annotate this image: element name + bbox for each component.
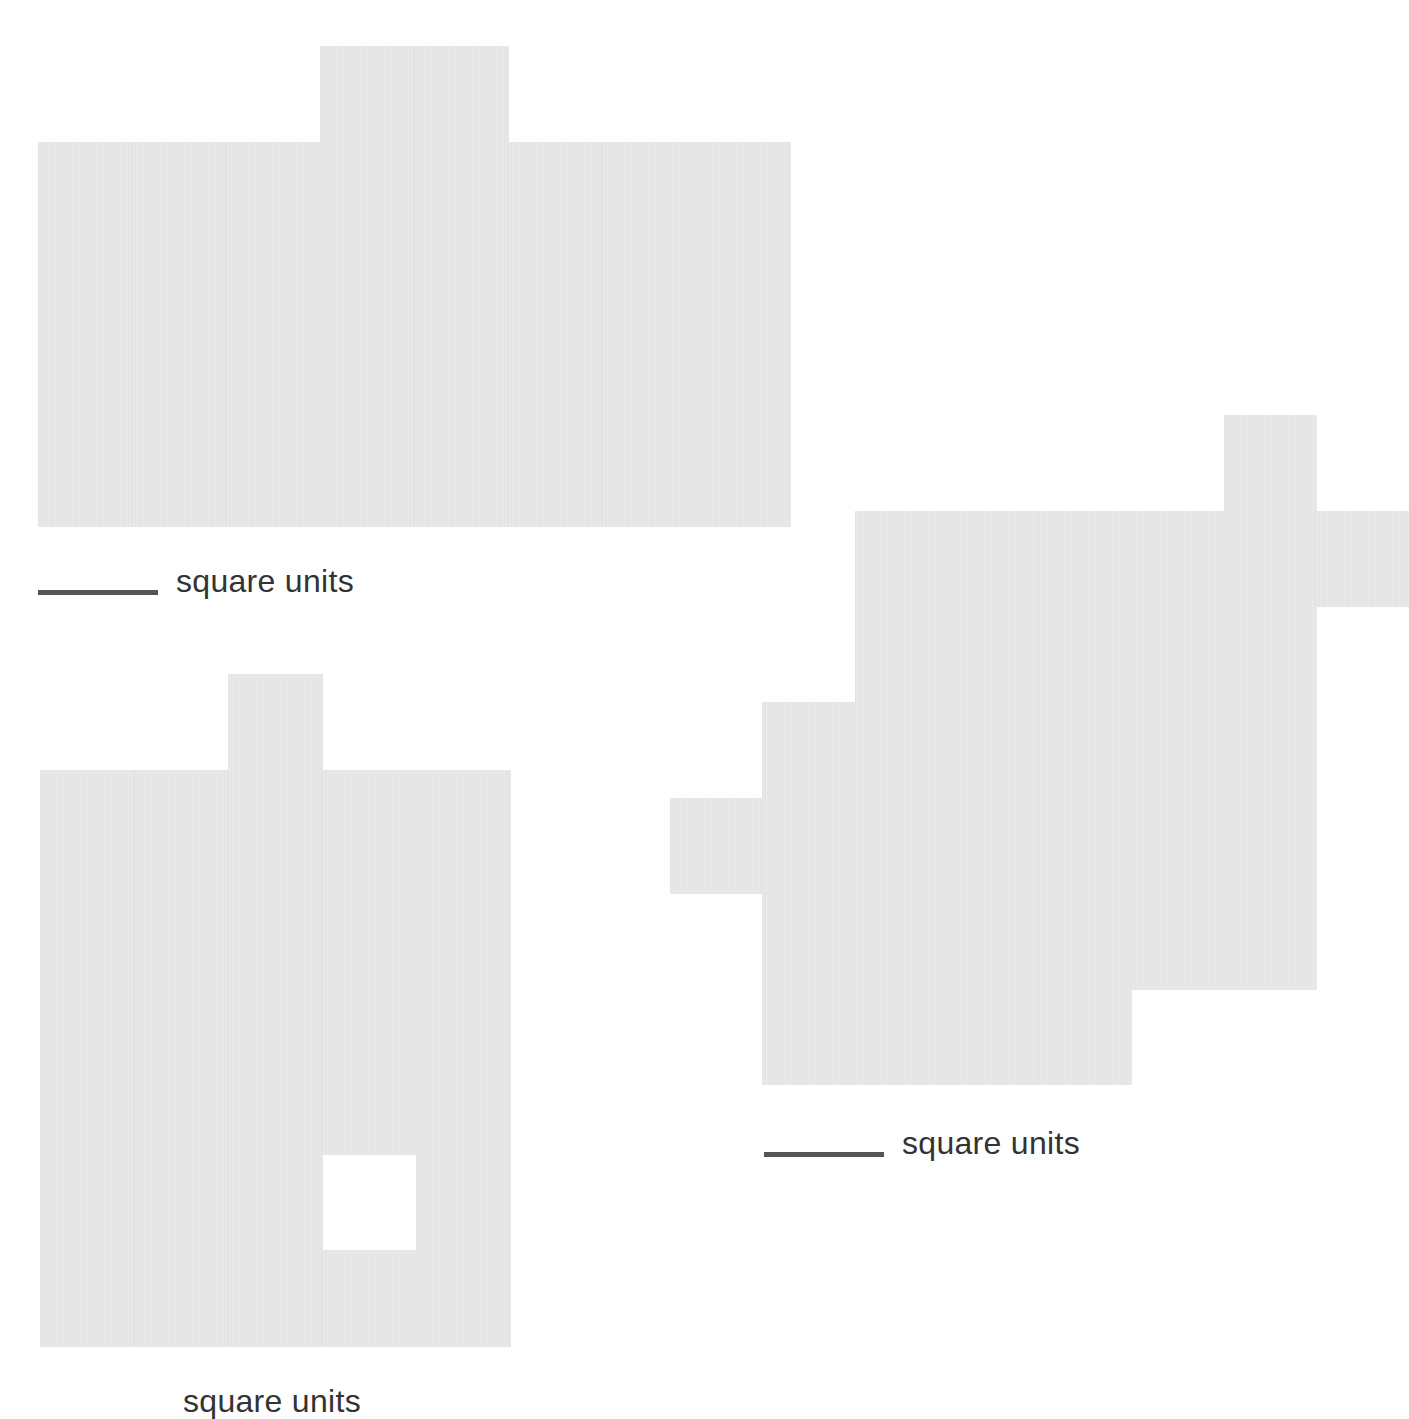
unit-square [414, 142, 509, 239]
unit-square [320, 430, 415, 527]
unit-square [320, 334, 415, 431]
unit-square [696, 142, 791, 239]
unit-square [414, 334, 509, 431]
unit-square [696, 334, 791, 431]
unit-square [947, 894, 1040, 990]
unit-square [1224, 511, 1317, 607]
unit-square [322, 1250, 417, 1347]
unit-square [1224, 702, 1317, 798]
unit-square [320, 46, 415, 143]
unit-square [416, 770, 511, 867]
unit-square [1039, 511, 1132, 607]
unit-square [855, 511, 948, 607]
unit-square [134, 1058, 229, 1155]
unit-square [322, 770, 417, 867]
unit-square [1224, 606, 1317, 702]
unit-square [134, 1250, 229, 1347]
unit-square [38, 430, 133, 527]
unit-square [602, 142, 697, 239]
unit-square [1224, 798, 1317, 894]
unit-square [134, 962, 229, 1059]
unit-square [855, 894, 948, 990]
unit-square [134, 770, 229, 867]
unit-square [226, 238, 321, 335]
unit-square [132, 238, 227, 335]
unit-square [228, 866, 323, 963]
unit-square [855, 606, 948, 702]
answer-line: square units [183, 1385, 361, 1417]
unit-square [414, 46, 509, 143]
unit-square [762, 989, 855, 1085]
unit-square [855, 798, 948, 894]
unit-square [1224, 894, 1317, 990]
unit-square [1132, 606, 1225, 702]
unit-square [320, 142, 415, 239]
units-label: square units [176, 565, 354, 597]
unit-square [416, 1250, 511, 1347]
unit-square [228, 674, 323, 771]
unit-square [508, 430, 603, 527]
unit-square [322, 1058, 417, 1155]
unit-square [855, 989, 948, 1085]
unit-square [228, 962, 323, 1059]
unit-square [414, 238, 509, 335]
unit-square [416, 962, 511, 1059]
unit-square [40, 1154, 135, 1251]
unit-square [1132, 511, 1225, 607]
answer-line: square units [764, 1127, 1080, 1159]
unit-square [508, 142, 603, 239]
unit-square [1224, 415, 1317, 511]
unit-square [414, 430, 509, 527]
unit-square [228, 770, 323, 867]
unit-square [602, 334, 697, 431]
unit-square [134, 1154, 229, 1251]
unit-square [40, 770, 135, 867]
units-label: square units [902, 1127, 1080, 1159]
unit-square [416, 866, 511, 963]
unit-square [228, 1250, 323, 1347]
unit-square [1039, 798, 1132, 894]
unit-square [40, 1250, 135, 1347]
unit-square [134, 866, 229, 963]
unit-square [670, 798, 763, 894]
unit-square [947, 989, 1040, 1085]
unit-square [947, 606, 1040, 702]
unit-square [1039, 702, 1132, 798]
answer-blank[interactable] [38, 590, 158, 595]
unit-square [1132, 894, 1225, 990]
unit-square [508, 334, 603, 431]
unit-square [762, 798, 855, 894]
unit-square [38, 334, 133, 431]
unit-square [132, 430, 227, 527]
unit-square [696, 238, 791, 335]
answer-blank[interactable] [764, 1152, 884, 1157]
unit-square [1132, 798, 1225, 894]
unit-square [1039, 894, 1132, 990]
unit-square [226, 334, 321, 431]
unit-square [947, 511, 1040, 607]
unit-square [762, 702, 855, 798]
unit-square [132, 142, 227, 239]
answer-line: square units [38, 565, 354, 597]
unit-square [226, 142, 321, 239]
unit-square [38, 238, 133, 335]
unit-square [947, 702, 1040, 798]
units-label: square units [183, 1385, 361, 1417]
unit-square [38, 142, 133, 239]
unit-square [132, 334, 227, 431]
unit-square [320, 238, 415, 335]
unit-square [947, 798, 1040, 894]
unit-square [40, 866, 135, 963]
unit-square [228, 1058, 323, 1155]
unit-square [1132, 702, 1225, 798]
unit-square [602, 238, 697, 335]
unit-square [696, 430, 791, 527]
unit-square [416, 1058, 511, 1155]
unit-square [1039, 989, 1132, 1085]
unit-square [1039, 606, 1132, 702]
unit-square [226, 430, 321, 527]
unit-square [855, 702, 948, 798]
unit-square [1316, 511, 1409, 607]
unit-square [228, 1154, 323, 1251]
unit-square [40, 962, 135, 1059]
